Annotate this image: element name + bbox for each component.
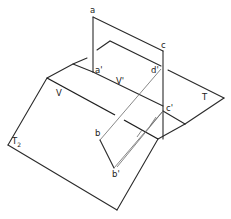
- label-d-prime: d': [151, 65, 159, 75]
- construction-lines: [100, 69, 163, 168]
- label-a: a: [90, 5, 95, 15]
- label-c-prime: c': [166, 103, 173, 113]
- vertical-plane: [93, 17, 163, 139]
- label-c: c: [161, 40, 166, 50]
- label-t2: T2: [11, 136, 21, 148]
- label-b-prime: b': [112, 169, 120, 179]
- projection-diagram: a c a' d' V' V T c' b b' T2: [0, 0, 231, 219]
- label-a-prime: a': [95, 65, 103, 75]
- label-v-prime: V': [116, 76, 124, 86]
- label-v: V: [56, 88, 62, 98]
- label-t: T: [201, 92, 208, 102]
- v-prime-plane: [47, 58, 224, 124]
- t2-plane: [8, 78, 185, 210]
- label-b: b: [95, 128, 100, 138]
